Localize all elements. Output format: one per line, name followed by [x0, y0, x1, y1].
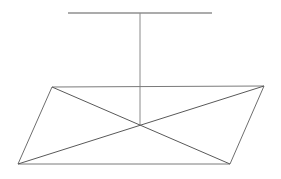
parallelogram-edge-left: [18, 87, 52, 164]
figure-canvas: [0, 0, 281, 179]
parallelogram-edge-top: [52, 86, 264, 87]
parallelogram-edge-right: [230, 86, 264, 164]
diagonal-topright-bottomleft: [18, 86, 264, 164]
geometry-figure: [0, 0, 281, 179]
